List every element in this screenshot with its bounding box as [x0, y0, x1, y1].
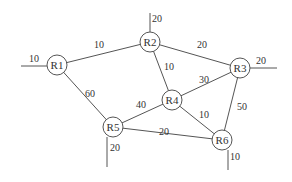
edge-weight-label: 40 — [136, 99, 146, 110]
nodes-layer: R1R2R3R4R5R6 — [47, 32, 250, 150]
router-label: R2 — [144, 36, 157, 48]
host-link-weight-label: 10 — [29, 53, 39, 64]
router-node-r6: R6 — [212, 130, 232, 150]
router-node-r1: R1 — [47, 55, 67, 75]
network-diagram: R1R2R3R4R5R6 106020103040105020102020201… — [0, 0, 292, 182]
router-node-r3: R3 — [230, 58, 250, 78]
host-link-weight-label: 10 — [230, 151, 240, 162]
router-label: R1 — [51, 59, 64, 71]
host-link-weight-label: 20 — [152, 13, 162, 24]
edge-weight-label: 10 — [94, 39, 104, 50]
edge-weight-label: 20 — [159, 126, 169, 137]
router-node-r2: R2 — [140, 32, 160, 52]
router-label: R3 — [234, 62, 247, 74]
router-label: R6 — [216, 134, 229, 146]
edge-weight-label: 30 — [199, 74, 209, 85]
network-graph: R1R2R3R4R5R6 106020103040105020102020201… — [0, 0, 292, 182]
router-label: R5 — [107, 121, 120, 133]
edge-weight-label: 10 — [164, 61, 174, 72]
router-node-r4: R4 — [162, 90, 182, 110]
edge-weight-label: 20 — [197, 39, 207, 50]
router-label: R4 — [166, 94, 179, 106]
edge-weight-label: 60 — [85, 88, 95, 99]
router-node-r5: R5 — [103, 117, 123, 137]
host-link-weight-label: 20 — [110, 142, 120, 153]
edge-weight-label: 50 — [237, 101, 247, 112]
host-link-weight-label: 20 — [256, 55, 266, 66]
edge-weight-label: 10 — [199, 109, 209, 120]
